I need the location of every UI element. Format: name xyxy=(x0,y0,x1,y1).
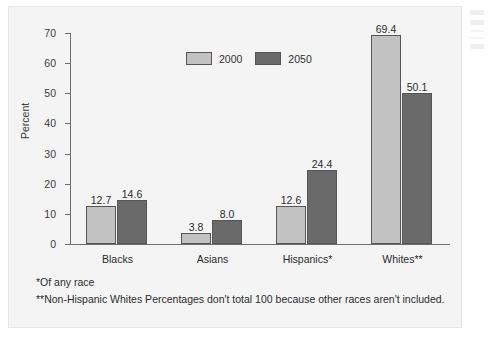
figure-container: Percent 2000 2050 010203040506070 12.714… xyxy=(0,0,492,340)
edge-mark xyxy=(470,37,484,39)
footnote-2: **Non-Hispanic Whites Percentages don't … xyxy=(36,293,456,305)
bar-value-label: 8.0 xyxy=(220,208,235,220)
bar-2050-Hispanics: 24.4 xyxy=(307,170,337,244)
y-tick-label: 20 xyxy=(44,178,56,190)
y-tick-label: 0 xyxy=(50,238,56,250)
x-category-label: Whites** xyxy=(355,253,450,265)
page-edge-artifact xyxy=(470,10,484,80)
bar-group: 12.714.6Blacks xyxy=(70,33,165,244)
bar-value-label: 12.6 xyxy=(281,194,301,206)
y-tick-label: 10 xyxy=(44,208,56,220)
bar-value-label: 50.1 xyxy=(407,81,427,93)
edge-mark xyxy=(470,44,484,49)
edge-mark xyxy=(470,30,484,32)
bar-group: 12.624.4Hispanics* xyxy=(260,33,355,244)
y-axis-label: Percent xyxy=(19,103,31,139)
bar-value-label: 12.7 xyxy=(91,194,111,206)
bar-2000-Whites: 69.4 xyxy=(371,35,401,244)
plot-area: 010203040506070 12.714.6Blacks3.88.0Asia… xyxy=(70,33,450,245)
edge-mark xyxy=(470,20,484,25)
bar-groups: 12.714.6Blacks3.88.0Asians12.624.4Hispan… xyxy=(70,33,450,245)
x-category-label: Blacks xyxy=(70,253,165,265)
bar-2050-Blacks: 14.6 xyxy=(117,200,147,244)
y-tick-label: 50 xyxy=(44,87,56,99)
bar-2050-Whites: 50.1 xyxy=(402,93,432,244)
footnotes: *Of any race **Non-Hispanic Whites Perce… xyxy=(36,276,456,310)
bar-2000-Blacks: 12.7 xyxy=(86,206,116,244)
bar-2000-Hispanics: 12.6 xyxy=(276,206,306,244)
y-tick-label: 70 xyxy=(44,27,56,39)
y-tick-label: 40 xyxy=(44,117,56,129)
x-category-label: Asians xyxy=(165,253,260,265)
bar-2000-Asians: 3.8 xyxy=(181,233,211,244)
y-tick-label: 60 xyxy=(44,57,56,69)
bar-value-label: 69.4 xyxy=(376,23,396,35)
edge-mark xyxy=(470,10,484,15)
bar-value-label: 24.4 xyxy=(312,158,332,170)
bar-value-label: 14.6 xyxy=(122,188,142,200)
bar-2050-Asians: 8.0 xyxy=(212,220,242,244)
bar-group: 69.450.1Whites** xyxy=(355,33,450,244)
footnote-1: *Of any race xyxy=(36,276,456,288)
bar-value-label: 3.8 xyxy=(189,221,204,233)
bar-group: 3.88.0Asians xyxy=(165,33,260,244)
x-category-label: Hispanics* xyxy=(260,253,355,265)
y-tick-label: 30 xyxy=(44,148,56,160)
